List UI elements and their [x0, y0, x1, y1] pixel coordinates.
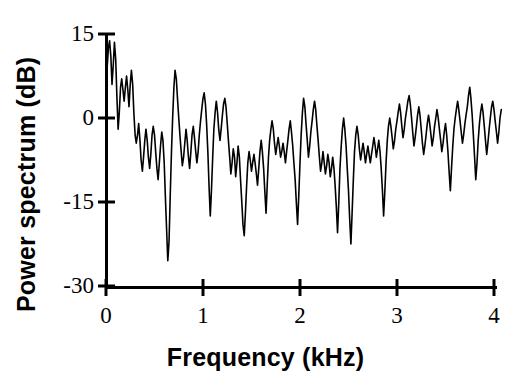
x-tick-label: 4 — [474, 304, 514, 327]
x-axis-title: Frequency (kHz) — [0, 345, 531, 370]
x-tick-label: 3 — [377, 304, 417, 327]
y-tick-label: 0 — [83, 106, 95, 129]
x-tick-label: 1 — [183, 304, 223, 327]
y-axis-title: Power spectrum (dB) — [14, 57, 39, 312]
x-tick-label: 2 — [280, 304, 320, 327]
x-tick-label: 0 — [86, 304, 126, 327]
y-tick-label: -15 — [63, 190, 94, 213]
spectrum-trace — [106, 41, 501, 261]
y-tick-label: -30 — [63, 274, 94, 297]
y-tick-label: 15 — [71, 22, 94, 45]
figure-power-spectrum: 150-15-30 01234 Power spectrum (dB) Freq… — [0, 0, 531, 387]
